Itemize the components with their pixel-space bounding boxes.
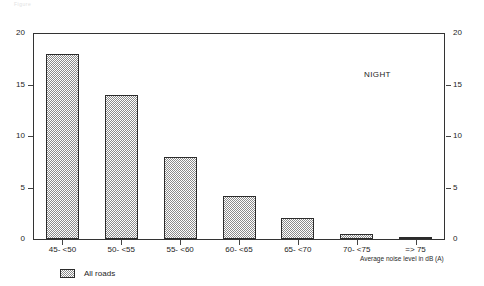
y-axis-tick-right	[446, 85, 451, 86]
y-axis-tick-label-left: 15	[8, 80, 25, 89]
y-axis-tick-label-right: 10	[453, 131, 473, 140]
bar-65-70	[281, 218, 314, 239]
hatched-pattern-swatch	[60, 269, 75, 278]
y-axis-tick-label-left: 10	[8, 131, 25, 140]
bar-50-55	[105, 95, 138, 239]
y-axis-tick-left	[28, 136, 33, 137]
legend-item-label: All roads	[84, 269, 115, 278]
y-axis-tick-label-right: 5	[453, 183, 473, 192]
y-axis-tick-label-right: 15	[453, 80, 473, 89]
x-axis-title: Average noise level in dB (A)	[360, 255, 444, 262]
chart-legend: All roads	[60, 269, 115, 278]
bar--75	[399, 237, 432, 239]
x-axis-tick-label: => 75	[376, 245, 456, 254]
bar-70-75	[340, 234, 373, 239]
bar-series-all-roads	[33, 33, 445, 239]
night-annotation-label: NIGHT	[364, 70, 391, 79]
faint-header-text: Figure	[14, 1, 31, 7]
bar-55-60	[164, 157, 197, 239]
y-axis-tick-label-left: 5	[8, 183, 25, 192]
y-axis-tick-right	[446, 188, 451, 189]
y-axis-tick-right	[446, 136, 451, 137]
bar-45-50	[46, 54, 79, 239]
y-axis-tick-left	[28, 188, 33, 189]
y-axis-tick-label-right: 20	[453, 28, 473, 37]
chart-figure: Figure Average noise level in dB (A) NIG…	[0, 0, 484, 286]
y-axis-tick-label-left: 20	[8, 28, 25, 37]
y-axis-tick-left	[28, 85, 33, 86]
y-axis-tick-label-right: 0	[453, 234, 473, 243]
bar-60-65	[223, 196, 256, 239]
y-axis-tick-label-left: 0	[8, 234, 25, 243]
